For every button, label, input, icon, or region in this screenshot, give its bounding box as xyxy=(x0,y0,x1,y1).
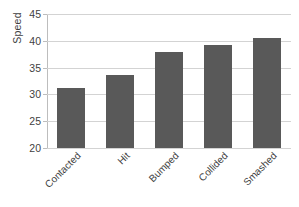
x-tick-label-bumped: Bumped xyxy=(133,150,180,197)
bar-hit xyxy=(106,75,134,148)
bar-series xyxy=(47,14,291,148)
y-tick-label-25: 25 xyxy=(17,116,41,127)
y-tick-label-45: 45 xyxy=(17,9,41,20)
x-tick-label-collided: Collided xyxy=(182,150,229,197)
x-axis-tick-labels: ContactedHitBumpedCollidedSmashed xyxy=(47,150,291,206)
chart-title-clipped xyxy=(0,0,299,3)
y-tick-label-20: 20 xyxy=(17,143,41,154)
bar-chart: Speed 202530354045 ContactedHitBumpedCol… xyxy=(0,0,299,207)
y-tick-label-40: 40 xyxy=(17,36,41,47)
plot-area xyxy=(47,14,291,148)
x-tick-label-smashed: Smashed xyxy=(231,150,278,197)
x-tick-label-contacted: Contacted xyxy=(36,150,83,197)
x-tick-label-hit: Hit xyxy=(85,150,132,197)
bar-contacted xyxy=(57,88,85,148)
bar-collided xyxy=(204,45,232,148)
y-tick-label-35: 35 xyxy=(17,63,41,74)
gridline-20 xyxy=(47,148,291,149)
y-tick-label-30: 30 xyxy=(17,89,41,100)
bar-smashed xyxy=(253,38,281,148)
bar-bumped xyxy=(155,52,183,148)
tick-mark-20 xyxy=(43,148,47,149)
